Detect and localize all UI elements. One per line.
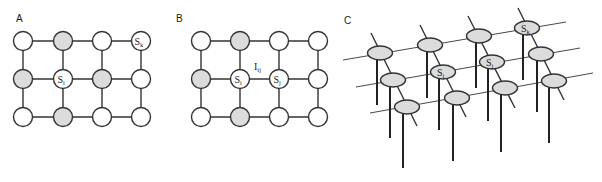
- node-shaded: [54, 108, 73, 127]
- node: [542, 74, 567, 88]
- node: [132, 70, 151, 89]
- node: [93, 32, 112, 51]
- node: [14, 32, 33, 51]
- lattice-figure: A Sk Si B: [0, 0, 602, 182]
- node: [270, 108, 289, 127]
- node: [368, 46, 393, 60]
- panel-b-edges: [201, 41, 318, 117]
- node: [309, 108, 328, 127]
- node-shaded: [93, 70, 112, 89]
- node-shaded: [231, 32, 250, 51]
- node: [418, 38, 443, 52]
- panel-a: A Sk Si: [14, 13, 151, 127]
- panel-c-front-row: [395, 74, 567, 168]
- panel-a-edges: [23, 41, 141, 117]
- node: [270, 32, 289, 51]
- panel-c: C: [343, 8, 593, 168]
- node: [93, 108, 112, 127]
- node: [445, 91, 470, 105]
- node: [192, 32, 211, 51]
- panel-b: B Si Sj Iij: [176, 13, 328, 127]
- panel-c-label: C: [344, 15, 351, 26]
- node-shaded: [14, 70, 33, 89]
- panel-b-label: B: [176, 13, 183, 24]
- panel-a-label: A: [16, 13, 23, 24]
- node: [309, 32, 328, 51]
- node: [493, 81, 518, 95]
- label-iij: Iij: [254, 61, 261, 73]
- panel-c-middle-row: [381, 47, 554, 138]
- node: [192, 108, 211, 127]
- node: [309, 70, 328, 89]
- node: [14, 108, 33, 127]
- node-shaded: [231, 108, 250, 127]
- node: [132, 108, 151, 127]
- node: [381, 73, 406, 87]
- node: [467, 29, 492, 43]
- node: [395, 100, 420, 114]
- node-shaded: [54, 32, 73, 51]
- node-shaded: [192, 70, 211, 89]
- node: [529, 47, 554, 61]
